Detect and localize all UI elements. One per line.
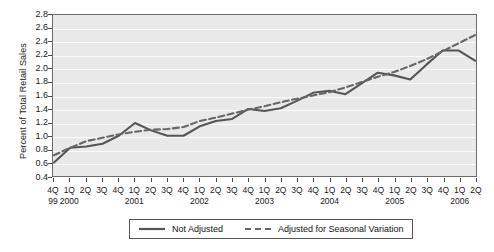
x-axis-quarter-label: 1Q (190, 185, 208, 195)
x-axis-quarter-label: 3Q (288, 185, 306, 195)
x-axis-quarter-label: 4Q (44, 185, 62, 195)
y-axis-tick-label: 0.6 (26, 159, 48, 168)
x-axis-tick (53, 178, 54, 182)
y-axis-tick (48, 41, 52, 42)
y-axis-tick-label: 2.8 (26, 10, 48, 19)
x-axis-year-label: 2000 (54, 196, 84, 206)
x-axis-tick (216, 178, 217, 182)
x-axis-year-label: 2006 (445, 196, 475, 206)
x-axis-year-label: 2005 (380, 196, 410, 206)
plot-area (52, 14, 477, 177)
y-axis-tick-label: 1.0 (26, 132, 48, 141)
x-axis-tick (265, 178, 266, 182)
x-axis-tick (362, 178, 363, 182)
y-axis-tick (48, 123, 52, 124)
x-axis-year-label: 2002 (184, 196, 214, 206)
x-axis-year-label: 2003 (250, 196, 280, 206)
legend-label-not-adjusted: Not Adjusted (172, 224, 223, 234)
x-axis-tick (69, 178, 70, 182)
y-axis-tick (48, 96, 52, 97)
chart-lines (53, 15, 476, 176)
x-axis-tick (118, 178, 119, 182)
x-axis-tick (460, 178, 461, 182)
legend-label-adjusted: Adjusted for Seasonal Variation (278, 224, 403, 234)
x-axis-tick (151, 178, 152, 182)
x-axis-tick (297, 178, 298, 182)
x-axis-tick (232, 178, 233, 182)
y-axis-tick (48, 163, 52, 164)
x-axis-quarter-label: 2Q (142, 185, 160, 195)
x-axis-quarter-label: 2Q (467, 185, 485, 195)
x-axis-tick (378, 178, 379, 182)
x-axis-quarter-label: 1Q (451, 185, 469, 195)
y-axis-tick-label: 2.6 (26, 23, 48, 32)
x-axis-quarter-label: 2Q (207, 185, 225, 195)
x-axis-quarter-label: 2Q (77, 185, 95, 195)
dashed-line-icon (245, 224, 271, 234)
y-axis-tick (48, 14, 52, 15)
x-axis-tick (281, 178, 282, 182)
y-axis-tick (48, 68, 52, 69)
y-axis-tick-label: 1.2 (26, 118, 48, 127)
x-axis-quarter-label: 1Q (256, 185, 274, 195)
x-axis-tick (86, 178, 87, 182)
y-axis-tick-label: 2.4 (26, 37, 48, 46)
chart-figure: Percent of Total Retail Sales 2.82.62.42… (0, 0, 494, 252)
y-axis-tick (48, 82, 52, 83)
x-axis-tick (167, 178, 168, 182)
x-axis-quarter-label: 4Q (369, 185, 387, 195)
x-axis-quarter-label: 1Q (125, 185, 143, 195)
solid-line-icon (139, 224, 165, 234)
y-axis-tick-label: 0.8 (26, 145, 48, 154)
x-axis-tick (199, 178, 200, 182)
y-axis-tick (48, 109, 52, 110)
x-axis-quarter-label: 4Q (304, 185, 322, 195)
x-axis-tick (313, 178, 314, 182)
x-axis-quarter-label: 3Q (353, 185, 371, 195)
x-axis-tick (444, 178, 445, 182)
y-axis-tick-label: 2.2 (26, 50, 48, 59)
legend-entry-adjusted: Adjusted for Seasonal Variation (245, 224, 403, 234)
x-axis-quarter-label: 2Q (337, 185, 355, 195)
x-axis-tick (102, 178, 103, 182)
x-axis-quarter-label: 2Q (402, 185, 420, 195)
x-axis-year-label: 2001 (119, 196, 149, 206)
y-axis-tick (48, 136, 52, 137)
y-axis-tick-label: 2.0 (26, 64, 48, 73)
x-axis-year-label: 2004 (315, 196, 345, 206)
y-axis-tick (48, 28, 52, 29)
y-axis-tick (48, 177, 52, 178)
x-axis-tick (248, 178, 249, 182)
y-axis-tick (48, 55, 52, 56)
x-axis-tick (427, 178, 428, 182)
y-axis-tick-labels: 2.82.62.42.22.01.81.61.41.21.00.80.60.4 (22, 0, 48, 252)
x-axis-tick (330, 178, 331, 182)
legend-entry-not-adjusted: Not Adjusted (139, 224, 223, 234)
y-axis-tick-label: 1.4 (26, 105, 48, 114)
x-axis-quarter-label: 3Q (418, 185, 436, 195)
x-axis-tick (476, 178, 477, 182)
y-axis-tick (48, 150, 52, 151)
x-axis-tick (395, 178, 396, 182)
x-axis-tick (183, 178, 184, 182)
x-axis-quarter-label: 3Q (93, 185, 111, 195)
x-axis-quarter-label: 4Q (239, 185, 257, 195)
x-axis-tick (411, 178, 412, 182)
x-axis-quarter-label: 3Q (158, 185, 176, 195)
y-axis-tick-label: 1.8 (26, 77, 48, 86)
chart-legend: Not Adjusted Adjusted for Seasonal Varia… (129, 219, 413, 239)
x-axis-tick (346, 178, 347, 182)
y-axis-tick-label: 1.6 (26, 91, 48, 100)
x-axis-tick (134, 178, 135, 182)
y-axis-tick-label: 0.4 (26, 173, 48, 182)
